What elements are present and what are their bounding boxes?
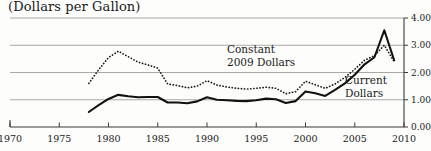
x-tick-label-2010: 2010 <box>392 133 416 144</box>
x-tick-label-2005: 2005 <box>343 133 367 144</box>
constant-dollars-label: Constant 2009 Dollars <box>227 43 295 69</box>
x-tick-label-1970: 1970 <box>0 133 22 144</box>
x-tick-label-1995: 1995 <box>244 133 268 144</box>
x-tick-label-2000: 2000 <box>293 133 317 144</box>
x-tick-label-1990: 1990 <box>195 133 219 144</box>
x-tick-label-1980: 1980 <box>96 133 120 144</box>
y-tick-label-3.00: 3.00 <box>411 40 431 50</box>
y-tick-label-4.00: 4.00 <box>411 13 431 23</box>
y-tick-label-0.00: 0.00 <box>411 122 431 132</box>
constant-dollars-label-line2: 2009 Dollars <box>227 56 295 69</box>
gasoline-price-chart: (Dollars per Gallon) Constant 2009 Dolla… <box>0 0 431 151</box>
constant-dollars-label-line1: Constant <box>227 43 295 56</box>
y-tick-label-2.00: 2.00 <box>411 68 431 78</box>
current-dollars-label: Current Dollars <box>345 74 387 100</box>
current-dollars-label-line2: Dollars <box>345 87 387 100</box>
y-tick-label-1.00: 1.00 <box>411 95 431 105</box>
x-tick-label-1975: 1975 <box>47 133 71 144</box>
x-tick-label-1985: 1985 <box>146 133 170 144</box>
current-dollars-label-line1: Current <box>345 74 387 87</box>
